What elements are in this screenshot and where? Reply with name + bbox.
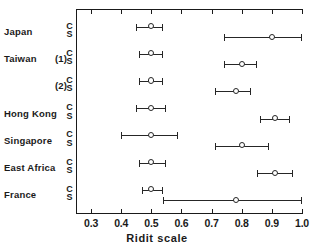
interval-point-marker [148, 132, 154, 138]
interval-(2)-S [215, 87, 251, 96]
interval-cap-high [301, 197, 302, 204]
series-key-S: S [64, 193, 75, 202]
interval-cap-low [139, 51, 140, 58]
x-tick-label-0.7: 0.7 [205, 217, 219, 229]
series-key-S: S [64, 57, 75, 66]
tick-bottom-0.7 [212, 209, 213, 214]
interval-singapore-C [121, 131, 178, 140]
interval-cap-high [256, 61, 257, 68]
series-key-S: S [64, 112, 75, 121]
interval-hong-kong-C [136, 104, 166, 113]
interval-cap-high [162, 51, 163, 58]
tick-bottom-0.5 [151, 209, 152, 214]
interval-cap-low [215, 88, 216, 95]
tick-top-0.7 [212, 9, 213, 14]
interval-point-marker [148, 77, 154, 83]
interval-cap-low [224, 61, 225, 68]
interval-point-marker [148, 159, 154, 165]
series-key-S: S [64, 30, 75, 39]
interval-point-marker [233, 88, 239, 94]
row-series-keys: CS [64, 76, 75, 93]
row-series-keys: CS [64, 158, 75, 175]
row-series-keys: CS [64, 185, 75, 202]
row-label-singapore: Singapore [4, 135, 52, 146]
interval-japan-S [224, 33, 302, 42]
interval-taiwan-C [139, 50, 163, 59]
interval-cap-low [121, 132, 122, 139]
interval-point-marker [148, 50, 154, 56]
interval-point-marker [272, 115, 278, 121]
axis-bottom-rule [76, 213, 302, 214]
row-series-keys: CS [64, 49, 75, 66]
series-key-S: S [64, 139, 75, 148]
interval-cap-high [292, 170, 293, 177]
interval-cap-low [142, 187, 143, 194]
interval-point-marker [269, 34, 275, 40]
tick-top-0.6 [181, 9, 182, 14]
x-tick-label-0.5: 0.5 [144, 217, 158, 229]
interval-point-marker [239, 61, 245, 67]
tick-bottom-0.9 [272, 209, 273, 214]
row-label-taiwan: Taiwan [4, 53, 37, 64]
row-series-keys: CS [64, 22, 75, 39]
interval-hong-kong-S [260, 115, 290, 124]
interval-cap-low [215, 143, 216, 150]
interval-japan-C [136, 23, 163, 32]
tick-top-0.8 [242, 9, 243, 14]
interval-cap-high [301, 34, 302, 41]
interval-cap-low [257, 170, 258, 177]
tick-bottom-1.0 [302, 209, 303, 214]
interval-cap-low [260, 116, 261, 123]
interval-(2)-C [139, 77, 163, 86]
x-tick-label-0.6: 0.6 [174, 217, 188, 229]
interval-cap-low [139, 160, 140, 167]
interval-point-marker [239, 142, 245, 148]
ridit-scale-chart: 0.30.40.50.60.70.80.91.0 Ridit scale Jap… [0, 0, 314, 250]
interval-cap-low [224, 34, 225, 41]
x-tick-label-1.0: 1.0 [295, 217, 309, 229]
tick-top-0.9 [272, 9, 273, 14]
interval-cap-high [268, 143, 269, 150]
interval-cap-low [136, 24, 137, 31]
interval-france-S [163, 196, 302, 205]
interval-east-africa-S [257, 169, 293, 178]
interval-east-africa-C [139, 159, 166, 168]
interval-point-marker [148, 105, 154, 111]
interval-bar [224, 37, 302, 38]
x-tick-label-0.3: 0.3 [84, 217, 98, 229]
interval-cap-low [163, 197, 164, 204]
row-label-east-africa: East Africa [4, 162, 55, 173]
row-label-hong-kong: Hong Kong [4, 108, 57, 119]
interval-france-C [142, 186, 163, 195]
tick-bottom-0.3 [91, 209, 92, 214]
interval-cap-high [162, 187, 163, 194]
interval-cap-high [162, 78, 163, 85]
tick-top-0.3 [91, 9, 92, 14]
plot-area [76, 9, 302, 214]
row-series-keys: CS [64, 130, 75, 147]
interval-point-marker [233, 197, 239, 203]
x-tick-label-0.8: 0.8 [235, 217, 249, 229]
tick-bottom-0.4 [121, 209, 122, 214]
interval-cap-high [165, 105, 166, 112]
interval-point-marker [148, 23, 154, 29]
interval-point-marker [148, 186, 154, 192]
tick-top-1.0 [302, 9, 303, 14]
interval-singapore-S [215, 142, 269, 151]
interval-cap-low [139, 78, 140, 85]
interval-cap-high [289, 116, 290, 123]
tick-top-0.4 [121, 9, 122, 14]
interval-cap-high [177, 132, 178, 139]
row-series-keys: CS [64, 103, 75, 120]
tick-bottom-0.6 [181, 209, 182, 214]
axis-top-rule [76, 9, 302, 10]
interval-cap-high [250, 88, 251, 95]
interval-point-marker [272, 170, 278, 176]
axis-left-rule [76, 9, 77, 214]
row-label-france: France [4, 189, 36, 200]
interval-cap-low [136, 105, 137, 112]
interval-cap-high [162, 24, 163, 31]
tick-top-0.5 [151, 9, 152, 14]
x-axis-title: Ridit scale [0, 232, 314, 244]
series-key-S: S [64, 84, 75, 93]
